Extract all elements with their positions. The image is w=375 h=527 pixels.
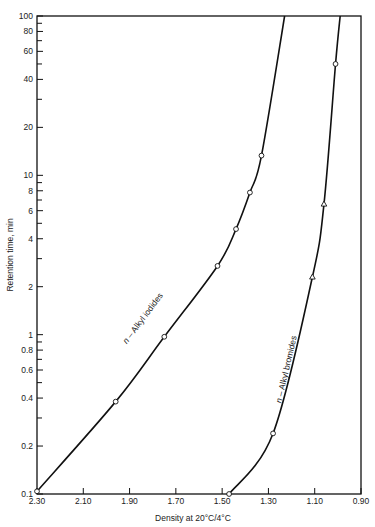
iodides-curve: [37, 16, 285, 491]
y-tick-label: 0.8: [21, 345, 33, 355]
y-tick-label: 0.2: [21, 441, 33, 451]
x-tick-label: 1.30: [260, 496, 277, 506]
y-tick-label: 100: [19, 11, 33, 21]
iodides-label: n – Alkyl iodides: [120, 291, 165, 346]
y-tick-label: 80: [24, 26, 34, 36]
circle-marker: [333, 62, 338, 67]
x-tick-label: 2.10: [75, 496, 92, 506]
y-tick-label: 0.6: [21, 365, 33, 375]
series-group: n – Alkyl iodidesn – Alkyl bromides: [35, 16, 341, 496]
y-tick-label: 2: [28, 282, 33, 292]
y-tick-label: 4: [28, 234, 33, 244]
y-tick-label: 60: [24, 46, 34, 56]
x-tick-label: 1.10: [306, 496, 323, 506]
x-tick-label: 2.30: [29, 496, 46, 506]
y-tick-label: 40: [24, 74, 34, 84]
y-axis: 0.10.20.40.60.8124681020406080100: [19, 11, 43, 499]
y-axis-label: Retention time, min: [5, 218, 15, 291]
x-tick-label: 0.90: [353, 496, 370, 506]
circle-marker: [259, 153, 264, 158]
y-tick-label: 20: [24, 122, 34, 132]
x-tick-label: 1.70: [168, 496, 185, 506]
x-tick-label: 1.90: [121, 496, 138, 506]
circle-marker: [234, 227, 239, 232]
bromides-curve: [229, 16, 340, 494]
circle-marker: [271, 431, 276, 436]
x-axis-label: Density at 20°C/4°C: [155, 513, 231, 523]
circle-marker: [248, 190, 253, 195]
circle-marker: [227, 492, 232, 497]
triangle-marker: [321, 201, 327, 206]
y-tick-label: 1: [28, 330, 33, 340]
circle-marker: [215, 264, 220, 269]
y-tick-label: 8: [28, 186, 33, 196]
y-tick-label: 6: [28, 206, 33, 216]
circle-marker: [113, 399, 118, 404]
bromides-label: n – Alkyl bromides: [273, 335, 298, 404]
circle-marker: [162, 334, 167, 339]
y-tick-label: 0.4: [21, 393, 33, 403]
chart: 0.10.20.40.60.8124681020406080100 2.302.…: [0, 0, 375, 527]
plot-frame: [37, 16, 361, 494]
x-axis: 2.302.101.901.701.501.301.100.90: [29, 488, 370, 506]
plot-border: [37, 16, 361, 494]
y-tick-label: 10: [24, 170, 34, 180]
circle-marker: [35, 489, 40, 494]
x-tick-label: 1.50: [214, 496, 231, 506]
triangle-marker: [310, 274, 316, 279]
